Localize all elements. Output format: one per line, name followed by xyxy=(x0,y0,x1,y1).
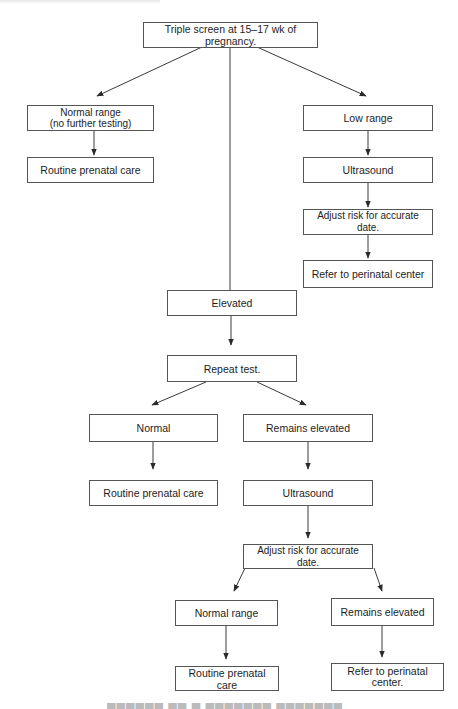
node-label: Triple screen at 15–17 wk of pregnancy. xyxy=(147,23,314,47)
node-final-remains-elevated: Remains elevated xyxy=(331,598,434,626)
node-label: Repeat test. xyxy=(204,363,261,375)
node-label: Routine prenatal care xyxy=(40,164,140,176)
node-final-normal-range: Normal range xyxy=(175,600,278,626)
node-label: Remains elevated xyxy=(340,606,424,618)
node-label: Adjust risk for accurate date. xyxy=(307,210,429,234)
node-elevated-adjust-risk: Adjust risk for accurate date. xyxy=(243,544,373,569)
node-label: Low range xyxy=(343,112,392,124)
node-label: Adjust risk for accurate date. xyxy=(247,545,369,569)
node-start: Triple screen at 15–17 wk of pregnancy. xyxy=(143,22,318,48)
figure-caption-clipped: ▀▀▀▀▀▀ ▀▀ ▀ ▀▀▀▀▀▀▀ ▀▀▀▀▀▀▀ xyxy=(107,703,357,709)
node-label: Routine prenatal care xyxy=(179,667,275,691)
node-repeat-routine-care: Routine prenatal care xyxy=(89,480,218,506)
node-normal-range: Normal range (no further testing) xyxy=(27,105,154,131)
node-label: Ultrasound xyxy=(343,164,394,176)
node-label: Refer to perinatal center. xyxy=(347,666,428,688)
node-elevated-ultrasound: Ultrasound xyxy=(243,480,373,506)
node-low-ultrasound: Ultrasound xyxy=(303,157,433,183)
node-low-adjust-risk: Adjust risk for accurate date. xyxy=(303,209,433,235)
node-elevated: Elevated xyxy=(167,290,297,316)
node-remains-elevated: Remains elevated xyxy=(243,414,373,442)
node-repeat-test: Repeat test. xyxy=(167,355,297,382)
node-label: Routine prenatal care xyxy=(103,487,203,499)
node-label: Remains elevated xyxy=(266,422,350,434)
node-label: Normal xyxy=(137,422,171,434)
node-label: Normal range (no further testing) xyxy=(50,107,132,129)
node-label: Refer to perinatal center xyxy=(312,268,425,280)
node-label: Normal range xyxy=(195,607,259,619)
node-label: Elevated xyxy=(212,297,253,309)
node-low-refer: Refer to perinatal center xyxy=(303,260,433,288)
node-final-refer: Refer to perinatal center. xyxy=(331,663,444,691)
node-normal-routine-care: Routine prenatal care xyxy=(27,157,154,183)
node-repeat-normal: Normal xyxy=(89,414,218,442)
node-final-routine-care: Routine prenatal care xyxy=(175,666,279,691)
node-low-range: Low range xyxy=(303,105,433,131)
node-label: Ultrasound xyxy=(283,487,334,499)
